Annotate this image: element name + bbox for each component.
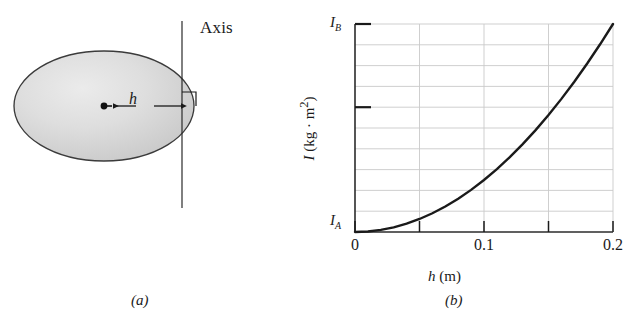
figure-root: Axis h (a) I (kg · m2) IB IA: [0, 0, 639, 333]
ellipse-axis-diagram: [0, 0, 300, 280]
x-tick-label-0.2: 0.2: [603, 236, 623, 254]
caption-panel-b: (b): [445, 292, 463, 309]
y-tick-label-ib: IB: [330, 14, 341, 33]
moment-of-inertia-plot: [290, 0, 639, 260]
axis-text-label: Axis: [200, 18, 233, 38]
panel-a-diagram: Axis h (a): [0, 0, 300, 333]
x-tick-label-0: 0: [351, 236, 359, 254]
h-distance-label: h: [129, 90, 137, 108]
y-axis-title: I (kg · m2): [297, 54, 318, 204]
x-axis-title: h (m): [428, 268, 461, 285]
panel-b-chart: I (kg · m2) IB IA: [290, 0, 639, 333]
x-tick-label-0.1: 0.1: [474, 236, 494, 254]
caption-panel-a: (a): [131, 292, 149, 309]
y-tick-label-ia: IA: [330, 212, 341, 231]
